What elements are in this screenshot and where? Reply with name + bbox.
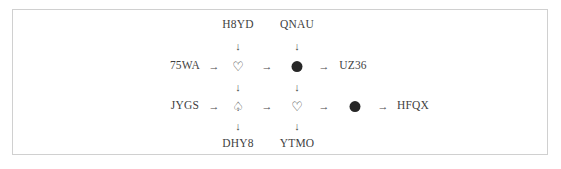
- node-r1-heart-outline[interactable]: ♡: [232, 60, 244, 73]
- row-2-input-label: JYGS: [171, 100, 199, 112]
- filled-circle-icon: [292, 61, 303, 72]
- top-label-2: QNAU: [280, 19, 314, 31]
- top-label-1: H8YD: [222, 19, 253, 31]
- arrow-down-mid-2: ↓: [294, 82, 300, 93]
- diagram-frame: H8YD QNAU ↓ ↓ 75WA → ♡ → → UZ36 ↓ ↓ JYGS…: [12, 9, 548, 155]
- arrow-right-r1-2: →: [262, 61, 273, 72]
- arrow-down-top-1: ↓: [235, 41, 241, 52]
- arrow-right-r2-1: →: [209, 101, 220, 112]
- bottom-label-1: DHY8: [222, 138, 253, 150]
- arrow-down-mid-1: ↓: [235, 82, 241, 93]
- filled-circle-icon: [350, 101, 361, 112]
- row-1-input-label: 75WA: [170, 60, 200, 72]
- node-r2-filled-circle[interactable]: [350, 100, 361, 112]
- arrow-down-bottom-2: ↓: [294, 121, 300, 132]
- arrow-right-r1-3: →: [319, 61, 330, 72]
- arrow-down-bottom-1: ↓: [235, 121, 241, 132]
- node-r2-spade-outline[interactable]: ♤: [232, 100, 244, 113]
- bottom-label-2: YTMO: [280, 138, 315, 150]
- row-2-output-label: HFQX: [397, 100, 429, 112]
- arrow-right-r1-1: →: [209, 61, 220, 72]
- row-1-output-label: UZ36: [339, 60, 367, 72]
- node-r1-filled-circle[interactable]: [292, 60, 303, 72]
- arrow-right-r2-4: →: [378, 101, 389, 112]
- arrow-right-r2-3: →: [319, 101, 330, 112]
- arrow-right-r2-2: →: [262, 101, 273, 112]
- arrow-down-top-2: ↓: [294, 41, 300, 52]
- diagram-canvas: H8YD QNAU ↓ ↓ 75WA → ♡ → → UZ36 ↓ ↓ JYGS…: [0, 0, 561, 169]
- node-r2-heart-outline[interactable]: ♡: [291, 100, 303, 113]
